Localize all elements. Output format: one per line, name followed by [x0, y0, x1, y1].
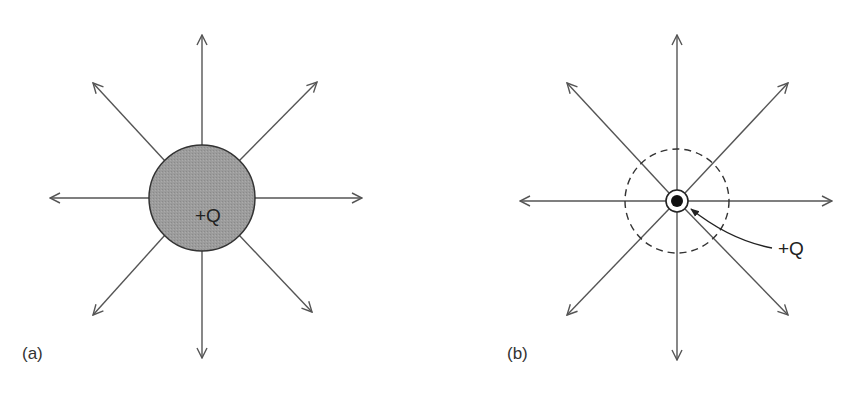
sphere-charge-label: +Q — [195, 205, 221, 227]
charged-sphere — [149, 145, 255, 251]
panel-b-label: (b) — [507, 344, 528, 364]
point-charge-dot — [671, 195, 683, 207]
diagram-canvas — [0, 0, 868, 401]
point-charge-label: +Q — [778, 238, 804, 260]
panel-a-label: (a) — [22, 344, 43, 364]
